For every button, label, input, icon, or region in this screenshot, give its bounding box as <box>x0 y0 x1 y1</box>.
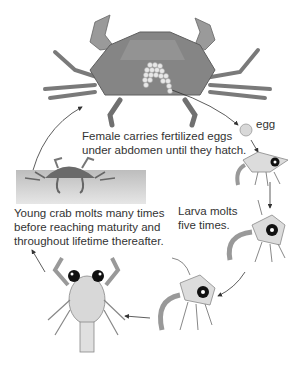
larva-3-illustration <box>160 258 215 330</box>
egg-label: egg <box>256 117 275 131</box>
young-caption-line-2: before reaching maturity and <box>14 220 164 234</box>
larva-1-illustration <box>237 152 288 186</box>
young-crab-illustration <box>16 158 146 204</box>
adult-caption-line-2: under abdomen until they hatch. <box>82 143 246 157</box>
diagram-illustration <box>0 0 307 365</box>
larva-caption-line-1: Larva molts <box>178 204 237 218</box>
young-crab-caption: Young crab molts many times before reach… <box>14 206 164 248</box>
adult-caption: Female carries fertilized eggs under abd… <box>82 129 246 157</box>
larva-caption-line-2: five times. <box>178 218 237 232</box>
megalopa-illustration <box>48 258 125 352</box>
young-caption-line-1: Young crab molts many times <box>14 206 164 220</box>
adult-caption-line-1: Female carries fertilized eggs <box>82 129 246 143</box>
arrow-megalopa-to-young <box>32 250 45 272</box>
arrow-egg-to-larva <box>251 140 258 152</box>
larva-2-illustration <box>229 200 285 262</box>
young-caption-line-3: throughout lifetime thereafter. <box>14 234 164 248</box>
arrow-larva-to-megalopa <box>125 316 150 318</box>
larva-caption: Larva molts five times. <box>178 204 237 232</box>
arrow-larva-to-larva-2 <box>218 272 245 296</box>
crab-life-cycle-diagram: Female carries fertilized eggs under abd… <box>0 0 307 365</box>
